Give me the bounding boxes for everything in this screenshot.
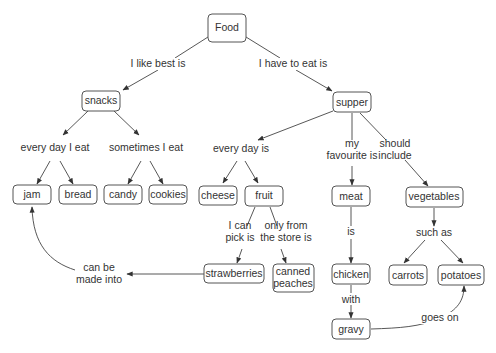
node-meat: meat (332, 186, 370, 206)
node-bread: bread (59, 185, 97, 204)
node-canned-peaches: canned peaches (273, 264, 314, 292)
link-label-only-from-store-line2: the store is (260, 231, 311, 243)
svg-text:cheese: cheese (201, 189, 235, 201)
link-label-can-be-made-into-line1: can be (83, 261, 115, 273)
node-vegetables: vegetables (406, 187, 463, 207)
link-label-every-day-i-eat: every day I eat (21, 141, 90, 153)
node-carrots: carrots (389, 265, 427, 285)
svg-text:cookies: cookies (150, 188, 186, 200)
node-potatoes: potatoes (438, 265, 484, 285)
svg-text:peaches: peaches (273, 277, 313, 289)
svg-text:snacks: snacks (85, 94, 118, 106)
node-supper: supper (333, 92, 371, 112)
link-label-is: is (347, 225, 355, 237)
svg-text:strawberries: strawberries (205, 267, 262, 279)
svg-text:chicken: chicken (333, 268, 369, 280)
link-label-my-favourite-is-line2: favourite is (327, 149, 378, 161)
concept-map: I like best is I have to eat is every da… (0, 0, 496, 353)
svg-text:carrots: carrots (392, 269, 424, 281)
svg-text:potatoes: potatoes (441, 269, 481, 281)
svg-text:bread: bread (65, 188, 92, 200)
node-cheese: cheese (199, 186, 237, 205)
svg-text:fruit: fruit (255, 189, 273, 201)
node-cookies: cookies (149, 185, 187, 204)
link-label-goes-on: goes on (421, 311, 459, 323)
link-label-should-include-line2: include (378, 149, 411, 161)
node-chicken: chicken (332, 264, 370, 284)
link-label-should-include-line1: should (380, 137, 411, 149)
svg-text:candy: candy (109, 188, 138, 200)
link-label-i-can-pick-is-line2: pick is (225, 231, 254, 243)
svg-text:jam: jam (23, 188, 41, 200)
node-snacks: snacks (82, 91, 120, 111)
svg-text:supper: supper (336, 96, 369, 108)
node-fruit: fruit (245, 186, 283, 206)
node-gravy: gravy (332, 319, 370, 339)
link-label-my-favourite-is-line1: my (345, 137, 360, 149)
link-label-with: with (341, 293, 361, 305)
link-label-i-have-to-eat-is: I have to eat is (259, 57, 327, 69)
svg-text:vegetables: vegetables (409, 190, 460, 202)
link-label-sometimes-i-eat: sometimes I eat (109, 141, 183, 153)
link-label-i-like-best-is: I like best is (131, 57, 186, 69)
link-label-only-from-store-line1: only from (264, 219, 307, 231)
node-candy: candy (104, 185, 142, 204)
link-label-i-can-pick-is-line1: I can (229, 219, 252, 231)
link-label-such-as: such as (416, 226, 452, 238)
svg-text:canned: canned (276, 265, 311, 277)
svg-text:gravy: gravy (338, 323, 364, 335)
svg-text:meat: meat (339, 190, 362, 202)
svg-text:Food: Food (215, 21, 239, 33)
node-food: Food (208, 14, 246, 42)
node-strawberries: strawberries (204, 264, 264, 283)
link-label-can-be-made-into-line2: made into (76, 273, 122, 285)
node-jam: jam (13, 185, 51, 204)
link-label-every-day-is: every day is (213, 142, 269, 154)
